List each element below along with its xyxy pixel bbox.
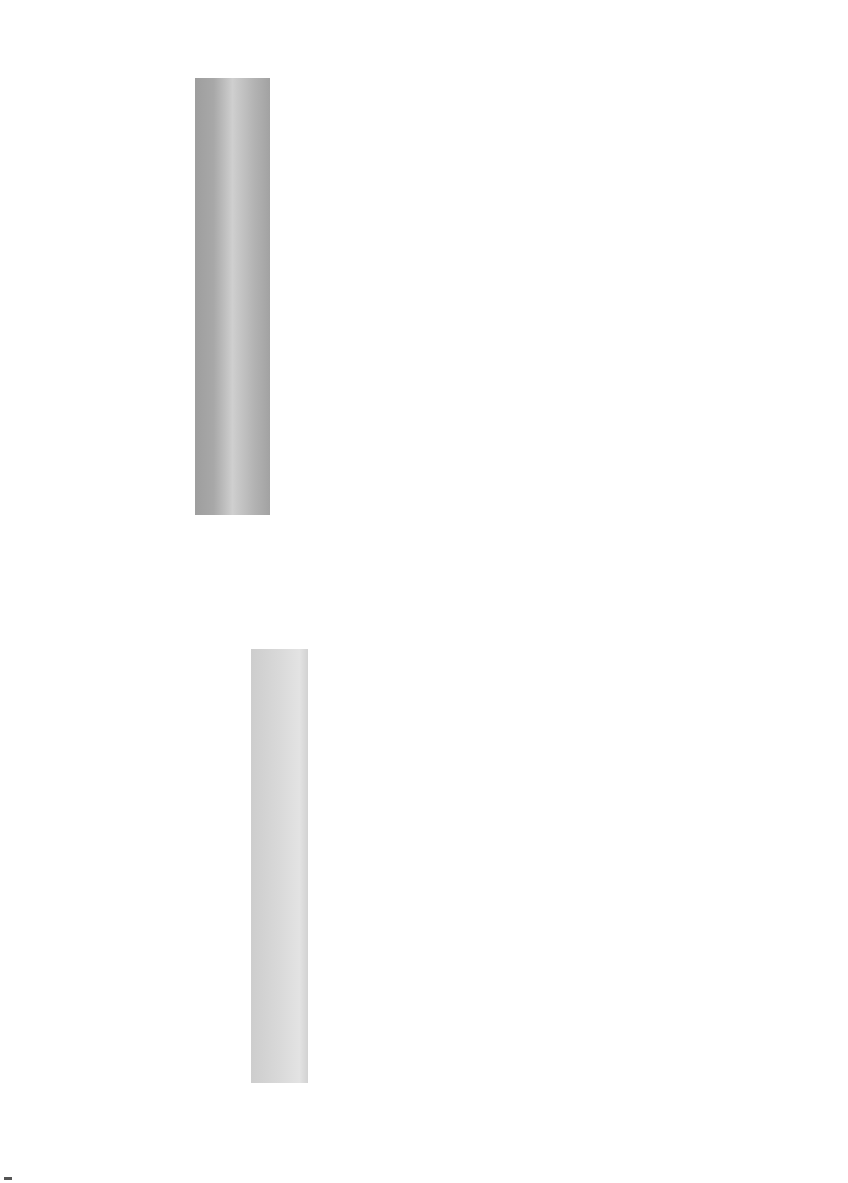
visible-band-shading-bottom xyxy=(251,649,308,1083)
corner-mark xyxy=(4,1177,12,1180)
visible-band-shading xyxy=(195,78,270,515)
figure-canvas xyxy=(0,0,848,1183)
top-chart xyxy=(195,78,270,515)
bottom-chart xyxy=(251,649,308,1083)
